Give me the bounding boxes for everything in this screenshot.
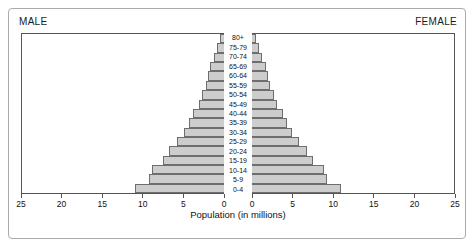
axis-tick-label: 20 [57, 199, 66, 209]
axis-tick [252, 194, 253, 198]
bar-female-15-19 [252, 156, 313, 165]
axis-tick-label: 10 [328, 199, 337, 209]
bar-male-60-64 [208, 71, 224, 80]
bar-female-35-39 [252, 118, 287, 127]
table-row [22, 100, 223, 109]
bar-male-70-74 [214, 53, 224, 62]
female-plot-panel [252, 33, 455, 194]
bar-male-10-14 [152, 165, 224, 174]
axis-tick-label: 15 [369, 199, 378, 209]
bar-male-35-39 [189, 118, 224, 127]
bar-female-55-59 [252, 81, 270, 90]
age-group-label: 55-59 [224, 80, 252, 89]
table-row [253, 156, 454, 165]
table-row [22, 43, 223, 52]
bar-female-20-24 [252, 146, 307, 155]
bar-female-25-29 [252, 137, 299, 146]
population-pyramid-figure: MALE FEMALE 80+75-7970-7465-6960-6455-59… [0, 0, 476, 249]
table-row [22, 128, 223, 137]
axis-tick [414, 194, 415, 198]
bar-female-0-4 [252, 184, 341, 193]
age-group-label: 25-29 [224, 137, 252, 146]
bar-male-0-4 [135, 184, 224, 193]
axis-tick [102, 194, 103, 198]
table-row [253, 128, 454, 137]
axis-tick-label: 25 [16, 199, 25, 209]
table-row [22, 146, 223, 155]
bar-male-55-59 [206, 81, 224, 90]
age-group-label: 5-9 [224, 175, 252, 184]
table-row [22, 109, 223, 118]
table-row [22, 62, 223, 71]
table-row [22, 137, 223, 146]
table-row [22, 156, 223, 165]
female-legend-label: FEMALE [415, 16, 457, 27]
table-row [22, 118, 223, 127]
table-row [253, 165, 454, 174]
age-group-label: 80+ [224, 33, 252, 42]
table-row [22, 184, 223, 193]
table-row [22, 53, 223, 62]
age-group-label: 30-34 [224, 128, 252, 137]
age-group-label: 75-79 [224, 42, 252, 51]
axis-tick-label: 0 [250, 199, 255, 209]
bar-female-60-64 [252, 71, 268, 80]
bar-male-65-69 [210, 62, 224, 71]
bar-female-5-9 [252, 174, 327, 183]
bar-female-65-69 [252, 62, 266, 71]
table-row [253, 81, 454, 90]
table-row [253, 100, 454, 109]
table-row [253, 71, 454, 80]
male-legend-label: MALE [19, 16, 47, 27]
axis-tick-label: 10 [138, 199, 147, 209]
bar-male-75-79 [217, 43, 224, 52]
bar-male-45-49 [199, 100, 224, 109]
bar-male-5-9 [149, 174, 224, 183]
table-row [253, 109, 454, 118]
male-plot-panel [21, 33, 224, 194]
age-group-label: 70-74 [224, 52, 252, 61]
axis-tick [292, 194, 293, 198]
male-bar-rows [22, 34, 223, 193]
bar-female-30-34 [252, 128, 292, 137]
female-bar-rows [253, 34, 454, 193]
table-row [253, 62, 454, 71]
table-row [253, 137, 454, 146]
bar-female-10-14 [252, 165, 324, 174]
bar-male-15-19 [163, 156, 224, 165]
bar-female-75-79 [252, 43, 259, 52]
bar-female-50-54 [252, 90, 274, 99]
table-row [22, 165, 223, 174]
axis-tick-label: 25 [450, 199, 459, 209]
bar-female-80+ [252, 34, 256, 43]
table-row [22, 174, 223, 183]
age-group-label: 45-49 [224, 99, 252, 108]
age-group-label: 10-14 [224, 166, 252, 175]
age-group-label: 15-19 [224, 156, 252, 165]
age-group-label: 50-54 [224, 90, 252, 99]
axis-tick-label: 15 [97, 199, 106, 209]
axis-tick-label: 0 [222, 199, 227, 209]
table-row [253, 53, 454, 62]
bar-female-70-74 [252, 53, 262, 62]
table-row [253, 118, 454, 127]
age-group-label: 40-44 [224, 109, 252, 118]
bar-female-40-44 [252, 109, 283, 118]
x-axis-title: Population (in millions) [0, 209, 476, 220]
table-row [253, 34, 454, 43]
axis-tick [224, 194, 225, 198]
axis-tick [183, 194, 184, 198]
table-row [22, 71, 223, 80]
age-group-label: 35-39 [224, 118, 252, 127]
axis-tick-label: 5 [181, 199, 186, 209]
axis-tick [333, 194, 334, 198]
bar-male-25-29 [177, 137, 224, 146]
table-row [22, 81, 223, 90]
table-row [253, 146, 454, 155]
age-group-labels: 80+75-7970-7465-6960-6455-5950-5445-4940… [224, 33, 252, 194]
age-group-label: 0-4 [224, 185, 252, 194]
table-row [253, 184, 454, 193]
axis-tick [373, 194, 374, 198]
axis-tick [455, 194, 456, 198]
table-row [253, 174, 454, 183]
